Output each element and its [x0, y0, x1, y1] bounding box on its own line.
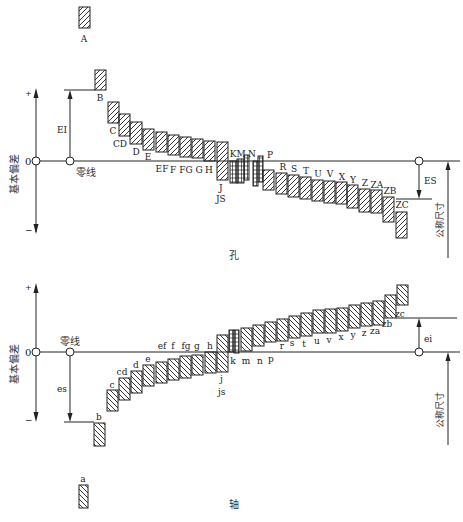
- hole-es-arrow-icon: [417, 190, 422, 199]
- shaft-nominal-size-label: 公称尺寸: [434, 392, 445, 428]
- deviation-label-zc: zc: [395, 309, 405, 319]
- shaft-section: + − 0 基本偏差 零线 es ei 公称尺寸 abccddeefffgghk…: [8, 283, 460, 510]
- deviation-bar-cd: [119, 114, 130, 136]
- deviation-bar-y: [349, 305, 360, 328]
- deviation-label-ef: EF: [156, 164, 169, 174]
- deviation-label-a: A: [80, 34, 88, 44]
- hole-zero-line-label: 零线: [76, 166, 96, 178]
- hole-zero-circle: [66, 157, 74, 165]
- deviation-label-m: m: [242, 356, 251, 366]
- hole-axis-down-arrow-icon: [34, 224, 39, 234]
- deviation-label-b: b: [96, 412, 102, 422]
- deviation-label-z: Z: [362, 178, 368, 188]
- deviation-label-za: za: [370, 326, 381, 336]
- deviation-bar-u: [313, 310, 324, 333]
- deviation-label-fg: FG: [179, 165, 192, 175]
- shaft-minus-sign: −: [25, 415, 33, 425]
- deviation-bar-a: [79, 485, 88, 508]
- deviation-bar-z: [361, 303, 372, 326]
- hole-minus-sign: −: [25, 225, 33, 235]
- deviation-bar-d: [130, 122, 142, 144]
- deviation-bar-c: [108, 102, 119, 123]
- deviation-bar-cd: [119, 378, 130, 400]
- deviation-bar-s: [289, 316, 300, 338]
- deviation-label-x: x: [338, 332, 343, 342]
- shaft-es-arrow-icon: [68, 413, 73, 422]
- deviation-label-z: z: [362, 328, 367, 338]
- deviation-label-s: s: [290, 338, 295, 348]
- shaft-plus-sign: +: [25, 283, 32, 292]
- deviation-bar-r: [277, 319, 288, 341]
- deviation-bar-h: [205, 352, 216, 373]
- deviation-label-c: C: [110, 126, 117, 136]
- shaft-axis-down-arrow-icon: [34, 412, 39, 422]
- hole-nominal-arrow-icon: [446, 161, 451, 170]
- deviation-label-d: D: [132, 147, 139, 157]
- deviation-bar-s: [288, 175, 299, 197]
- deviation-bar-m: [237, 159, 244, 183]
- hole-es-label: ES: [424, 176, 437, 186]
- deviation-bar-za: [371, 190, 382, 213]
- deviation-label-za: ZA: [371, 180, 384, 190]
- fundamental-deviation-diagram: + − 0 基本偏差 零线 EI ES 公称尺寸 ABCCDDEEFFFGGHK…: [0, 0, 463, 522]
- deviation-bar-fg: [180, 137, 191, 157]
- shaft-zero-line-label: 零线: [60, 335, 80, 347]
- deviation-label-ef: ef: [158, 341, 167, 351]
- shaft-bars: abccddeefffgghkmnprstuvxyzzazbzc: [79, 285, 408, 508]
- deviation-label-zb: ZB: [384, 186, 397, 196]
- deviation-bar-m: [241, 328, 252, 351]
- deviation-bar-f: [168, 359, 179, 380]
- deviation-label-v: V: [326, 169, 334, 179]
- deviation-label-t: t: [302, 339, 306, 349]
- hole-axis-up-arrow-icon: [34, 88, 39, 98]
- deviation-bar-u: [312, 180, 323, 201]
- deviation-label-zb: zb: [382, 319, 393, 329]
- deviation-label-a: a: [80, 474, 86, 484]
- shaft-ei-circle: [415, 348, 423, 356]
- hole-ei-arrow-icon: [68, 90, 73, 99]
- deviation-bar-t: [301, 313, 312, 336]
- deviation-label-y: y: [349, 330, 356, 340]
- deviation-bar-p: [263, 170, 274, 190]
- deviation-bar-k: [230, 161, 237, 183]
- deviation-label-s: S: [291, 164, 297, 174]
- deviation-bar-y: [347, 185, 358, 208]
- deviation-label-b: B: [97, 93, 104, 103]
- hole-section: + − 0 基本偏差 零线 EI ES 公称尺寸 ABCCDDEEFFFGGHK…: [8, 7, 460, 261]
- deviation-bar-f: [168, 135, 179, 155]
- deviation-label-k: k: [230, 356, 236, 366]
- deviation-bar-ef: [156, 362, 167, 383]
- deviation-label-e: e: [145, 354, 150, 364]
- shaft-zero-circle: [66, 348, 74, 356]
- shaft-axis-label: 基本偏差: [8, 344, 20, 384]
- shaft-nominal-arrow-icon: [446, 352, 451, 361]
- deviation-bar-v: [325, 309, 336, 333]
- deviation-label-h: h: [207, 341, 213, 351]
- shaft-es-label: es: [57, 384, 67, 394]
- deviation-label-r: r: [280, 341, 285, 351]
- hole-ei-label: EI: [57, 125, 68, 135]
- shaft-caption: 轴: [229, 498, 239, 510]
- shaft-axis-up-arrow-icon: [34, 283, 39, 293]
- deviation-label-e: E: [145, 152, 152, 162]
- hole-bars: ABCCDDEEFFFGGHKMNPRSTUVXYZZAZBZC: [79, 7, 409, 238]
- hole-plus-sign: +: [25, 89, 32, 98]
- deviation-label-r: R: [280, 162, 287, 172]
- shaft-js-label: js: [217, 387, 226, 397]
- shaft-j-label: j: [219, 374, 223, 384]
- deviation-label-u: U: [314, 169, 322, 179]
- shaft-ei-arrow-icon: [417, 318, 422, 327]
- deviation-bar-t: [300, 177, 311, 199]
- deviation-bar-e: [143, 129, 154, 150]
- deviation-label-v: v: [325, 335, 332, 345]
- deviation-bar-zc: [396, 212, 407, 238]
- deviation-label-d: d: [133, 360, 139, 370]
- deviation-bar-b: [95, 70, 106, 90]
- deviation-bar-g: [192, 139, 203, 158]
- deviation-label-c: c: [109, 380, 114, 390]
- deviation-bar-j-js: [217, 142, 228, 180]
- deviation-label-y: Y: [349, 175, 357, 185]
- deviation-bar-r: [276, 173, 287, 194]
- deviation-label-n: n: [257, 356, 263, 366]
- deviation-bar-v: [324, 181, 335, 203]
